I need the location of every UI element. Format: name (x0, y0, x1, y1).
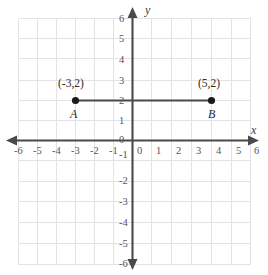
coordinate-plane-figure: -6 -5 -4 -3 -2 -1 0 1 2 3 4 5 6 6 5 4 3 … (0, 0, 268, 275)
point-b-marker (208, 97, 215, 104)
point-b-name-label: B (208, 108, 215, 120)
y-tick-label-neg3: -3 (119, 197, 128, 208)
y-tick-label-neg6: -6 (119, 259, 128, 270)
point-b-coordinate-label: (5,2) (198, 78, 220, 90)
y-axis-name-label: y (145, 4, 150, 16)
y-tick-label-neg5: -5 (119, 239, 128, 250)
point-a-name-label: A (70, 108, 77, 120)
x-tick-label-neg6: -6 (14, 146, 23, 157)
x-tick-label-6: 6 (254, 146, 259, 157)
x-tick-label-neg3: -3 (71, 146, 80, 157)
x-axis-arrow-right (248, 136, 259, 146)
y-tick-label-1: 1 (119, 116, 124, 127)
x-tick-label-neg4: -4 (52, 146, 61, 157)
x-tick-label-1: 1 (156, 146, 161, 157)
graph-svg (0, 0, 268, 275)
x-axis-arrow-left (6, 136, 17, 146)
x-tick-label-neg5: -5 (33, 146, 42, 157)
x-tick-label-5: 5 (236, 146, 241, 157)
x-tick-label-neg2: -2 (90, 146, 99, 157)
y-tick-label-origin: 0 (119, 135, 124, 146)
y-tick-label-5: 5 (119, 34, 124, 45)
y-tick-label-neg1: -1 (119, 150, 128, 161)
y-tick-label-2: 2 (119, 96, 124, 107)
y-tick-label-6: 6 (119, 14, 124, 25)
x-tick-label-neg1: -1 (109, 146, 118, 157)
point-a-marker (72, 97, 79, 104)
x-axis-name-label: x (251, 124, 256, 136)
y-axis-arrow-up (128, 7, 138, 18)
y-tick-label-neg4: -4 (119, 218, 128, 229)
x-tick-label-2: 2 (176, 146, 181, 157)
x-tick-label-4: 4 (216, 146, 221, 157)
y-tick-label-4: 4 (119, 55, 124, 66)
x-tick-label-origin: 0 (137, 146, 142, 157)
y-tick-label-neg2: -2 (119, 176, 128, 187)
x-tick-label-3: 3 (196, 146, 201, 157)
point-a-coordinate-label: (-3,2) (58, 78, 84, 90)
y-tick-label-3: 3 (119, 76, 124, 87)
y-axis (128, 7, 138, 270)
